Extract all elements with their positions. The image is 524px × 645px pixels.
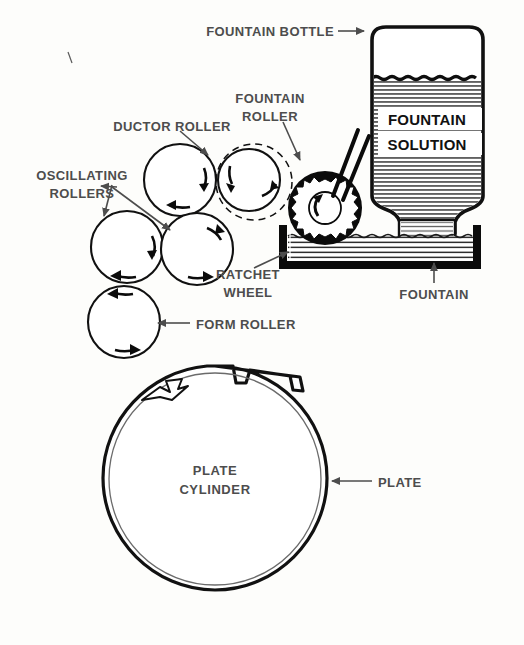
- oscillating-rollers-label-line1: OSCILLATING: [36, 168, 128, 183]
- fountain-roller-label-line2: ROLLER: [242, 109, 298, 124]
- fountain-roller-body: [218, 149, 280, 211]
- plate-label: PLATE: [378, 475, 422, 490]
- ductor-roller-part: [144, 144, 216, 216]
- fountain-solution-label-line1: FOUNTAIN: [388, 111, 466, 128]
- fountain-solution-label-line2: SOLUTION: [387, 136, 466, 153]
- plate-cylinder-outline: [103, 366, 327, 590]
- oscillating-roller-left-body: [91, 211, 163, 283]
- plate-cylinder-label-line1: PLATE: [193, 463, 238, 478]
- plate-cylinder-label-line2: CYLINDER: [179, 482, 250, 497]
- fountain-label: FOUNTAIN: [399, 287, 468, 302]
- fountain-roller-label-line1: FOUNTAIN: [235, 91, 304, 106]
- ductor-roller-label: DUCTOR ROLLER: [113, 119, 231, 134]
- diagram-page: FOUNTAIN SOLUTION: [0, 0, 524, 645]
- form-roller-body: [88, 286, 160, 358]
- oscillating-rollers-label-line2: ROLLERS: [50, 186, 115, 201]
- form-roller-part: [88, 286, 160, 358]
- plate-cylinder-part: PLATE CYLINDER: [103, 366, 327, 590]
- form-roller-label: FORM ROLLER: [196, 317, 296, 332]
- fountain-system-diagram: FOUNTAIN SOLUTION: [0, 0, 524, 645]
- fountain-bottle-label: FOUNTAIN BOTTLE: [206, 24, 334, 39]
- ratchet-wheel-label-line1: RATCHET: [216, 267, 280, 282]
- oscillating-roller-left: [91, 211, 163, 283]
- fountain-roller-part: [216, 144, 292, 220]
- ratchet-wheel-label-line2: WHEEL: [224, 285, 273, 300]
